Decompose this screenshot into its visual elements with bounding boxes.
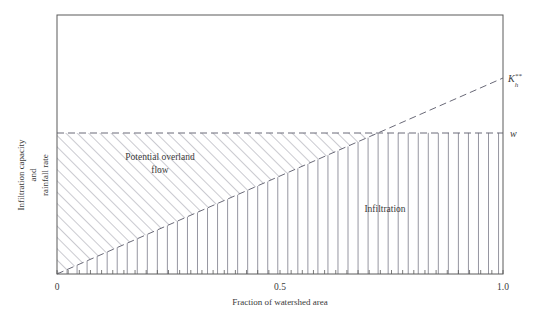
hydraulic-conductivity-label: K**h <box>507 72 522 89</box>
potential-overland-flow-label-line1: Potential overland <box>125 152 195 162</box>
infiltration-label: Infiltration <box>364 204 405 214</box>
x-tick-label-2: 1.0 <box>497 282 509 292</box>
kh-label-superscript: ** <box>515 72 523 80</box>
potential-overland-flow-label-line2: flow <box>151 165 169 175</box>
chart-svg: 0 0.5 1.0 Fraction of watershed area Inf… <box>0 0 535 314</box>
rainfall-rate-label: w <box>510 128 517 139</box>
x-axis-ticks <box>57 270 503 274</box>
kh-label-subscript: h <box>515 81 519 89</box>
x-tick-label-0: 0 <box>55 282 60 292</box>
figure-container: 0 0.5 1.0 Fraction of watershed area Inf… <box>0 0 535 314</box>
y-axis-title-line3: rainfall rate <box>40 154 50 196</box>
x-tick-label-1: 0.5 <box>274 282 286 292</box>
x-axis-title: Fraction of watershed area <box>232 297 328 307</box>
y-axis-title-line2: and <box>28 168 38 181</box>
y-axis-title-line1: Infiltration capacity <box>16 139 26 211</box>
